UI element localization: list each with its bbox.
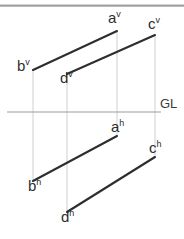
point-label-b-horizontal: bh xyxy=(28,178,41,193)
projection-drawing-canvas xyxy=(0,0,184,239)
point-label-d-horizontal: dh xyxy=(61,209,74,224)
line-cd-vertical-view xyxy=(67,35,155,74)
ground-line-label: GL xyxy=(160,97,177,110)
point-label-c-horizontal: ch xyxy=(149,140,162,155)
vertical-view-lines-group xyxy=(33,31,155,74)
point-label-c-vertical: cv xyxy=(148,16,160,31)
orthographic-projection-figure: av bv cv dv GL ah bh ch dh xyxy=(0,0,184,239)
point-label-a-vertical: av xyxy=(108,10,121,25)
point-label-d-vertical: dv xyxy=(60,70,73,85)
projector-lines-group xyxy=(33,31,155,212)
horizontal-view-lines-group xyxy=(33,136,155,212)
line-ab-horizontal-view xyxy=(33,136,117,181)
point-label-a-horizontal: ah xyxy=(111,119,124,134)
point-label-b-vertical: bv xyxy=(17,58,30,73)
line-ab-vertical-view xyxy=(33,31,117,70)
line-cd-horizontal-view xyxy=(67,157,155,212)
